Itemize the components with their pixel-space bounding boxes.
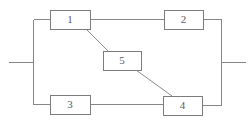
diagram-canvas-svg: 12534 (0, 0, 250, 122)
block1-to-block5 (86, 29, 108, 51)
reliability-block-diagram: 12534 (0, 0, 250, 122)
block-4[interactable]: 4 (164, 97, 203, 116)
block-5[interactable]: 5 (104, 52, 142, 71)
block-2-label: 2 (181, 13, 187, 25)
blocks-layer: 12534 (51, 11, 204, 116)
block-5-label: 5 (119, 54, 125, 66)
block-1[interactable]: 1 (51, 11, 91, 30)
block-2[interactable]: 2 (165, 11, 204, 30)
block5-to-block4 (136, 70, 172, 96)
block-3-label: 3 (67, 98, 73, 110)
block-4-label: 4 (180, 99, 186, 111)
block-1-label: 1 (67, 13, 73, 25)
block-3[interactable]: 3 (51, 96, 91, 115)
